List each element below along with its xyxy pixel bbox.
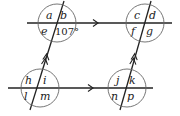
angle-label-p: p <box>127 90 134 103</box>
angle-label-j: j <box>113 74 120 87</box>
angle-label-a: a <box>46 9 53 22</box>
angle-label-107: 107° <box>55 26 79 37</box>
angle-label-k: k <box>129 74 136 87</box>
angle-label-c: c <box>134 9 140 22</box>
angle-label-b: b <box>60 9 67 22</box>
parallel-lines-diagram: a b e 107° c d f g h i l m j k n p <box>0 0 180 116</box>
angle-label-m: m <box>40 90 50 103</box>
angle-label-h: h <box>25 74 32 87</box>
angle-label-f: f <box>130 25 137 38</box>
angle-label-n: n <box>111 90 118 103</box>
angle-label-i: i <box>43 74 47 87</box>
angle-label-e: e <box>41 25 48 38</box>
angle-label-l: l <box>24 90 28 103</box>
angle-label-g: g <box>146 25 153 38</box>
angle-label-d: d <box>149 9 156 22</box>
